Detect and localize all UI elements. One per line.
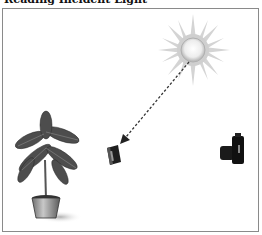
potted-plant-icon xyxy=(13,111,82,223)
sun-icon xyxy=(158,14,230,86)
light-meter-icon xyxy=(107,145,121,165)
light-ray-arrow xyxy=(120,62,189,144)
diagram-canvas xyxy=(0,0,262,235)
camera-icon xyxy=(220,133,244,164)
